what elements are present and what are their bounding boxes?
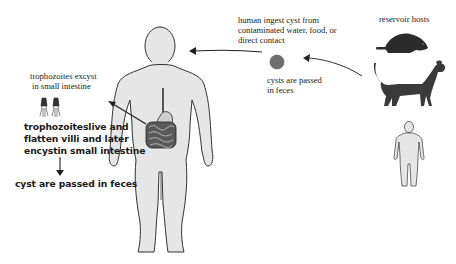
- small-human-figure-icon: [394, 122, 424, 187]
- cyst-icon: [270, 55, 284, 69]
- cysts-passed-label: cysts are passed in feces: [267, 75, 322, 95]
- trophozoites-live-line-1: trophozoiteslive and: [24, 121, 145, 133]
- intestine-icon: [146, 122, 176, 148]
- human-ingest-line-1: human ingest cyst from: [238, 15, 337, 25]
- trophozoites-excyst-line-2: in small intestine: [30, 81, 97, 91]
- trophozoites-live-label: trophozoiteslive and flatten villi and l…: [24, 121, 145, 157]
- trophozoites-live-line-3: encystin small intestine: [24, 145, 145, 157]
- dog-icon: [374, 61, 445, 107]
- reservoir-hosts-label: reservoir hosts: [379, 14, 429, 24]
- trophozoites-live-line-2: flatten villi and later: [24, 133, 145, 145]
- human-ingest-line-3: direct contact: [238, 35, 337, 45]
- arrow-down-icon: [56, 157, 64, 176]
- trophozoites-icon: [40, 98, 60, 117]
- cysts-passed-line-1: cysts are passed: [267, 75, 322, 85]
- trophozoites-excyst-line-1: trophozoites excyst: [30, 71, 97, 81]
- beaver-icon: [376, 34, 428, 53]
- cyst-passed-feces-label: cyst are passed in feces: [15, 178, 137, 190]
- cysts-passed-line-2: in feces: [267, 85, 322, 95]
- trophozoites-excyst-label: trophozoites excyst in small intestine: [30, 71, 97, 91]
- arrow-ingest-to-human-icon: [189, 47, 262, 55]
- arrow-reservoir-to-cyst-icon: [303, 54, 362, 76]
- human-ingest-line-2: contaminated water, food, or: [238, 25, 337, 35]
- human-ingest-label: human ingest cyst from contaminated wate…: [238, 15, 337, 45]
